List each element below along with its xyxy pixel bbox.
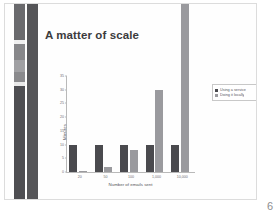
bar-using-a-service — [146, 145, 154, 172]
accent-strip-segment — [14, 44, 25, 60]
presentation-canvas: A matter of scale Minutes 05101520253035… — [0, 0, 277, 213]
y-axis-tick-label: 10 — [60, 143, 64, 147]
y-axis-tick-label: 25 — [60, 101, 64, 105]
bar-group — [118, 76, 144, 172]
bar-doing-it-locally — [104, 167, 112, 172]
bar-group — [144, 76, 170, 172]
page-title: A matter of scale — [45, 29, 139, 41]
bar-chart: Minutes 05101520253035 Number of emails … — [45, 70, 210, 190]
y-axis-tick-label: 5 — [62, 156, 64, 160]
chart-legend: Using a service Doing it locally — [212, 84, 257, 101]
bar-using-a-service — [120, 145, 128, 172]
bar-doing-it-locally — [130, 150, 138, 172]
y-axis-tick-label: 20 — [60, 115, 64, 119]
legend-item: Using a service — [215, 88, 255, 92]
accent-strip-segment — [14, 86, 25, 200]
bar-doing-it-locally — [79, 171, 87, 172]
bar-using-a-service — [171, 145, 179, 172]
accent-strip-segment — [14, 72, 25, 82]
x-axis-tick-label: 20 — [78, 175, 82, 179]
legend-label: Using a service — [220, 88, 246, 92]
bar-doing-it-locally — [181, 3, 189, 172]
legend-swatch-doing-it-locally — [215, 94, 218, 97]
y-axis-tick-label: 15 — [60, 129, 64, 133]
bar-group — [67, 76, 93, 172]
left-accent-strip-dark — [27, 4, 38, 199]
x-axis-title: Number of emails sent — [66, 182, 195, 187]
x-axis-tick-label: 100 — [128, 175, 134, 179]
x-axis-line — [66, 172, 195, 173]
bar-using-a-service — [95, 145, 103, 172]
x-axis-tick-label: 1,000 — [152, 175, 161, 179]
accent-strip-segment — [14, 60, 25, 72]
legend-label: Doing it locally — [220, 93, 244, 97]
bar-using-a-service — [69, 145, 77, 172]
page-number: 6 — [267, 200, 273, 212]
legend-item: Doing it locally — [215, 93, 255, 97]
x-axis-tick-label: 10,000 — [177, 175, 188, 179]
accent-strip-segment — [14, 4, 25, 40]
x-axis-tick-label: 50 — [103, 175, 107, 179]
y-axis-tick-label: 35 — [60, 74, 64, 78]
bar-group — [169, 76, 195, 172]
slide: A matter of scale Minutes 05101520253035… — [4, 3, 257, 200]
bar-group — [93, 76, 119, 172]
y-axis-tick-label: 30 — [60, 88, 64, 92]
y-axis-tick-label: 0 — [62, 170, 64, 174]
left-accent-strip-light — [14, 4, 25, 199]
bar-doing-it-locally — [155, 90, 163, 172]
plot-area: Minutes 05101520253035 — [67, 76, 195, 172]
legend-swatch-using-a-service — [215, 89, 218, 92]
